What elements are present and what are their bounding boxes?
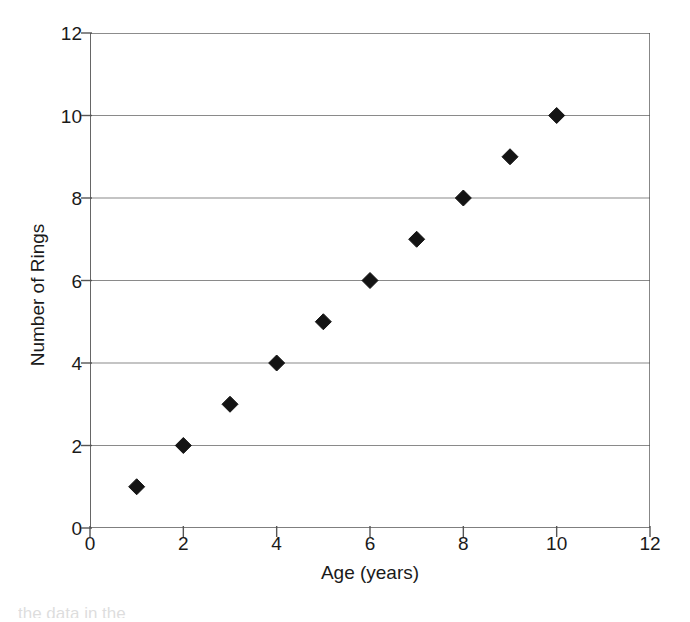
x-tick-label: 8 (438, 534, 488, 553)
y-tick-label-group: 024681012 (30, 0, 82, 622)
data-point-marker (409, 231, 425, 247)
data-marker-group (129, 108, 565, 495)
data-point-marker (175, 438, 191, 454)
x-axis-title: Age (years) (90, 562, 650, 584)
x-tick-label: 2 (158, 534, 208, 553)
plot-svg (90, 33, 650, 528)
x-tick-label: 0 (65, 534, 115, 553)
y-tick-label: 10 (42, 107, 82, 126)
y-tick-label: 2 (42, 437, 82, 456)
x-tick-label: 12 (625, 534, 675, 553)
figure-canvas: Number of Rings 024681012 024681012 Age … (0, 0, 690, 622)
data-point-marker (269, 355, 285, 371)
y-tick-label: 6 (42, 272, 82, 291)
x-tick-label: 10 (532, 534, 582, 553)
y-tick-label: 4 (42, 354, 82, 373)
plot-area (90, 33, 650, 528)
data-point-marker (315, 314, 331, 330)
y-tick-label: 12 (42, 24, 82, 43)
y-tick-label: 8 (42, 189, 82, 208)
data-point-marker (549, 108, 565, 124)
data-point-marker (455, 190, 471, 206)
data-point-marker (362, 273, 378, 289)
data-point-marker (129, 479, 145, 495)
data-point-marker (502, 149, 518, 165)
caption-artifact: the data in the (18, 604, 278, 618)
gridline-group (90, 33, 650, 446)
x-tick-label: 4 (252, 534, 302, 553)
x-tick-label: 6 (345, 534, 395, 553)
data-point-marker (222, 396, 238, 412)
x-tick-label-group: 024681012 (0, 534, 690, 564)
